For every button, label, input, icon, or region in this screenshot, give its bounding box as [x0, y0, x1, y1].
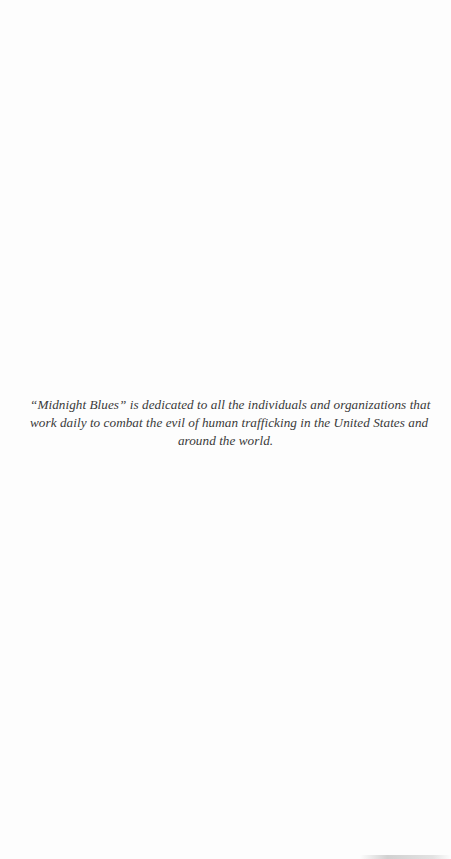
- dedication-line: “Midnight Blues” is dedicated to all the…: [30, 396, 421, 414]
- dedication-line: around the world.: [30, 432, 421, 450]
- book-page: “Midnight Blues” is dedicated to all the…: [0, 0, 451, 859]
- dedication-text: “Midnight Blues” is dedicated to all the…: [30, 396, 421, 450]
- dedication-line: work daily to combat the evil of human t…: [30, 414, 421, 432]
- page-edge-shadow: [360, 855, 451, 859]
